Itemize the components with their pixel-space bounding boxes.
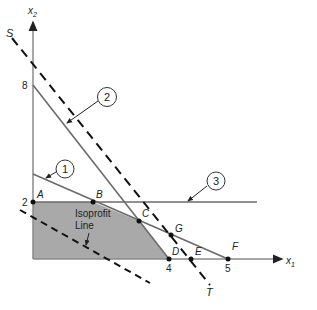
isoprofit-label-line2: Line: [75, 220, 94, 231]
label-F: F: [232, 241, 239, 252]
isoprofit-label-line1: Isoprofit: [75, 208, 111, 219]
constraint-2-label: 2: [104, 91, 110, 103]
point-G: [169, 233, 174, 238]
label-D: D: [172, 246, 179, 257]
x-tick-5: 5: [225, 263, 231, 274]
label-S: S: [6, 27, 14, 39]
label-T: T: [206, 286, 214, 298]
label-C: C: [142, 208, 150, 219]
point-C: [137, 219, 142, 224]
y-axis-label: x2: [27, 5, 37, 18]
constraint-1-label: 1: [62, 163, 68, 175]
constraint-3-callout: 3: [188, 172, 225, 201]
x-tick-4: 4: [166, 263, 172, 274]
y-tick-8: 8: [22, 80, 28, 91]
point-A: [31, 200, 36, 205]
x-axis-label: x1: [285, 255, 295, 268]
constraint-3-label: 3: [213, 175, 219, 187]
y-tick-2: 2: [22, 197, 28, 208]
point-E: [189, 257, 194, 262]
point-D: [167, 257, 172, 262]
lp-diagram: 2 1 3 Isoprofit Line x2 x1 8 2 4 5 A B C…: [0, 0, 317, 310]
point-B: [91, 200, 96, 205]
point-F: [226, 257, 231, 262]
label-A: A: [36, 189, 44, 200]
label-G: G: [175, 223, 183, 234]
constraint-1-callout: 1: [46, 160, 74, 178]
constraint-2-callout: 2: [67, 88, 117, 124]
label-B: B: [96, 189, 103, 200]
label-E: E: [195, 246, 202, 257]
